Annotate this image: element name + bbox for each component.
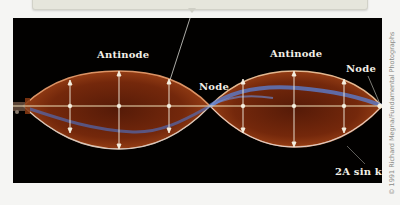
callout-pointer (188, 8, 196, 13)
right-lobe (210, 71, 382, 147)
photo-credit: © 1991 Richard Megna/Fundamental Photogr… (388, 32, 396, 196)
label-antinode-right: Antinode (270, 48, 322, 59)
label-node-right: Node (346, 63, 376, 74)
envelope-leader (347, 146, 365, 164)
label-envelope-formula: 2A sin kx (335, 166, 382, 177)
label-node-center: Node (199, 81, 229, 92)
standing-wave-photo: Antinode Antinode Node Node 2A sin kx (13, 18, 382, 183)
label-antinode-left: Antinode (97, 49, 149, 60)
standing-wave-diagram (13, 18, 382, 183)
callout-box (32, 0, 368, 10)
left-lobe (23, 71, 210, 149)
callout-leader-line (170, 18, 192, 80)
